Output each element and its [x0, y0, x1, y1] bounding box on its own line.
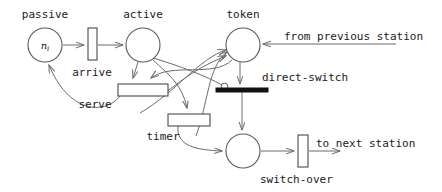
transition-timer[interactable]: [168, 114, 210, 126]
transition-direct-switch[interactable]: [216, 88, 268, 92]
arc-active-to-serve: [133, 62, 138, 78]
transition-switch-over[interactable]: [298, 135, 308, 167]
label-transition-timer: timer: [146, 130, 179, 143]
label-transition-switch-over: switch-over: [260, 173, 333, 186]
transition-serve[interactable]: [118, 84, 168, 96]
label-place-active: active: [123, 8, 163, 21]
label-transition-direct-switch: direct-switch: [262, 71, 348, 84]
label-transition-serve: serve: [78, 98, 111, 111]
petri-net-diagram: ni passive active token arrive serve tim…: [0, 0, 442, 192]
place-token[interactable]: [226, 28, 260, 62]
place-queue[interactable]: [226, 134, 260, 168]
label-transition-arrive: arrive: [72, 66, 112, 79]
label-from-previous-station: from previous station: [284, 30, 423, 43]
arc-timer-to-queue: [178, 126, 222, 151]
petri-net-canvas: ni passive active token arrive serve tim…: [0, 0, 442, 192]
transition-arrive[interactable]: [88, 28, 97, 60]
place-active[interactable]: [126, 28, 160, 62]
label-to-next-station: to next station: [316, 137, 415, 150]
label-place-passive: passive: [22, 8, 68, 21]
label-place-token: token: [226, 8, 259, 21]
